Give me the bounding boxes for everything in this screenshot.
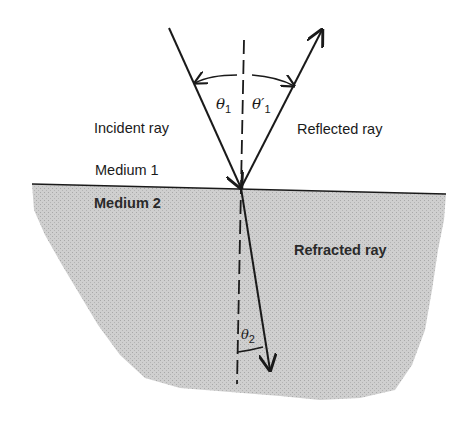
medium-1-label: Medium 1 xyxy=(95,162,159,178)
reflected-ray-label: Reflected ray xyxy=(297,121,382,137)
theta1-prime-subscript: 1 xyxy=(264,103,270,115)
theta2-subscript: 2 xyxy=(249,333,255,345)
theta1-prime-symbol: θ′ xyxy=(252,95,264,113)
theta1-label: θ1 xyxy=(216,95,231,115)
refracted-ray-label: Refracted ray xyxy=(294,242,387,258)
refraction-diagram xyxy=(0,0,472,427)
theta1-prime-label: θ′1 xyxy=(252,95,271,115)
incident-ray-label: Incident ray xyxy=(94,120,169,136)
theta2-label: θ2 xyxy=(241,327,255,345)
theta1-prime-arc xyxy=(252,75,294,86)
theta1-arc xyxy=(195,75,237,83)
theta1-symbol: θ xyxy=(216,95,225,113)
theta1-subscript: 1 xyxy=(225,103,231,115)
medium-2-label: Medium 2 xyxy=(94,195,161,211)
theta2-symbol: θ xyxy=(241,327,249,342)
